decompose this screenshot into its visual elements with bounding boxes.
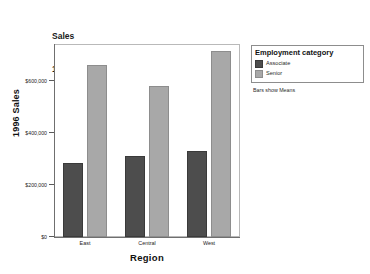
chart-footnote: Bars show Means: [253, 87, 295, 93]
bar: [125, 156, 145, 237]
y-tick-label: $400,000: [25, 128, 47, 138]
x-tick-label: East: [55, 240, 115, 246]
legend-swatch-icon: [255, 60, 263, 68]
bar: [187, 151, 207, 237]
legend-item-label: Senior: [266, 69, 282, 78]
legend-items: AssociateSenior: [255, 59, 360, 78]
y-tick: $200,000: [0, 180, 54, 190]
bar: [63, 163, 83, 237]
x-axis-line: [54, 237, 240, 238]
legend-item[interactable]: Senior: [255, 69, 360, 78]
x-tick-label: Central: [117, 240, 177, 246]
y-tick-label: $600,000: [25, 76, 47, 86]
x-tick-label: West: [179, 240, 239, 246]
chart-title-line-1: Sales: [52, 31, 74, 42]
bar: [211, 51, 231, 237]
x-axis-title: Region: [54, 252, 240, 263]
y-tick-mark: [49, 184, 54, 185]
y-tick-mark: [49, 80, 54, 81]
y-tick-mark: [49, 132, 54, 133]
y-axis-line: [54, 44, 55, 238]
legend-item-label: Associate: [266, 59, 290, 68]
y-tick-mark: [49, 236, 54, 237]
y-tick: $600,000: [0, 76, 54, 86]
y-tick: $400,000: [0, 128, 54, 138]
bar: [149, 86, 169, 237]
legend-swatch-icon: [255, 70, 263, 78]
y-tick-label: $0: [41, 232, 47, 242]
legend-item[interactable]: Associate: [255, 59, 360, 68]
bar-chart: Sales 1996 1996 Sales Region $0$200,000$…: [0, 0, 370, 274]
legend: Employment category AssociateSenior: [251, 45, 364, 83]
y-tick: $0: [0, 232, 54, 242]
legend-title: Employment category: [255, 48, 360, 58]
y-tick-label: $200,000: [25, 180, 47, 190]
bar: [87, 65, 107, 237]
